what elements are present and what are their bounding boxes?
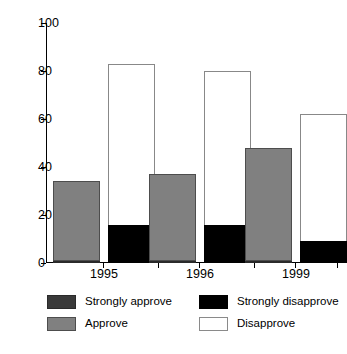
legend-item-strongly-disapprove: Strongly disapprove <box>199 295 337 309</box>
segment-strongly-disapprove-1999 <box>300 241 347 263</box>
x-tick-4 <box>254 263 255 268</box>
bar-1995-disapproval <box>108 64 155 263</box>
legend-label-disapprove: Disapprove <box>237 318 295 330</box>
segment-approve-1999 <box>245 148 292 261</box>
strongly-disapprove-swatch-icon <box>199 295 228 309</box>
x-tick-2 <box>158 263 159 268</box>
disapprove-swatch-icon <box>199 317 228 331</box>
x-axis-label-1999: 1999 <box>282 268 310 281</box>
legend-label-approve: Approve <box>85 318 128 330</box>
y-tick-20 <box>41 215 46 216</box>
legend-label-strongly-approve: Strongly approve <box>85 296 172 308</box>
bar-1999-disapproval <box>300 114 347 263</box>
strong-approve-swatch-icon <box>47 295 76 309</box>
bar-1996-disapproval <box>204 71 251 263</box>
approve-swatch-icon <box>47 317 76 331</box>
segment-approve-1995 <box>53 181 100 260</box>
segment-strongly-approve-1999 <box>245 261 292 263</box>
legend-item-approve: Approve <box>47 317 199 331</box>
y-axis-line <box>46 23 47 263</box>
segment-strongly-disapprove-1995 <box>108 225 155 263</box>
plot-area <box>46 23 338 263</box>
x-axis-label-1995: 1995 <box>90 268 118 281</box>
bar-1996-approval <box>149 174 196 263</box>
y-tick-60 <box>41 119 46 120</box>
bar-1999-approval <box>245 148 292 263</box>
segment-strongly-disapprove-1996 <box>204 225 251 263</box>
x-tick-6 <box>337 263 338 268</box>
legend-item-disapprove: Disapprove <box>199 317 337 331</box>
chart-legend: Strongly approve Strongly disapprove App… <box>47 291 337 335</box>
legend-row-1: Strongly approve Strongly disapprove <box>47 291 337 313</box>
y-tick-100 <box>41 23 46 24</box>
y-tick-80 <box>41 71 46 72</box>
bar-1995-approval <box>53 181 100 263</box>
legend-item-strongly-approve: Strongly approve <box>47 295 199 309</box>
x-axis-label-1996: 1996 <box>186 268 214 281</box>
legend-label-strongly-disapprove: Strongly disapprove <box>237 296 339 308</box>
y-tick-0 <box>41 263 46 264</box>
legend-row-2: Approve Disapprove <box>47 313 337 335</box>
segment-strongly-approve-1996 <box>149 261 196 263</box>
y-tick-40 <box>41 167 46 168</box>
segment-approve-1996 <box>149 174 196 260</box>
segment-strongly-approve-1995 <box>53 261 100 263</box>
